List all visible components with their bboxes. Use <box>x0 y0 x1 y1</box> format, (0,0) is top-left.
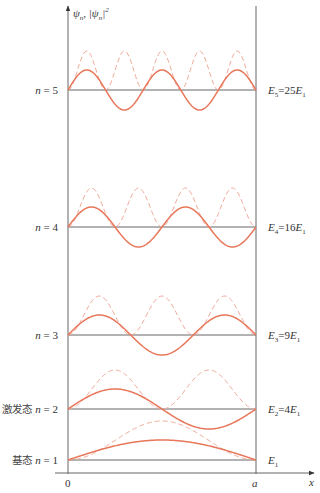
energy-label: E3=9E1 <box>267 329 301 344</box>
x-origin-label: 0 <box>65 477 71 489</box>
x-end-label: a <box>252 477 258 489</box>
energy-label: E1 <box>267 454 279 469</box>
level-label: n = 3 <box>35 329 58 341</box>
energy-levels: 基态 n = 1E1激发态 n = 2E2=4E1n = 3E3=9E1n = … <box>2 51 306 469</box>
y-axis-label: ψn, |ψn|2 <box>73 6 109 22</box>
level-n3: n = 3E3=9E1 <box>35 296 300 355</box>
level-n4: n = 4E4=16E1 <box>35 188 306 247</box>
energy-label: E4=16E1 <box>267 221 306 236</box>
infinite-square-well-diagram: ψn, |ψn|2 0 a x 基态 n = 1E1激发态 n = 2E2=4E… <box>0 0 320 493</box>
energy-label: E2=4E1 <box>267 403 301 418</box>
level-label: n = 4 <box>35 221 58 233</box>
energy-label: E5=25E1 <box>267 84 306 99</box>
level-n1: 基态 n = 1E1 <box>12 421 279 469</box>
level-label: 激发态 n = 2 <box>2 403 58 415</box>
level-n5: n = 5E5=25E1 <box>35 51 306 110</box>
x-axis-label: x <box>308 476 314 488</box>
level-label: 基态 n = 1 <box>12 454 58 466</box>
level-label: n = 5 <box>35 84 58 96</box>
wavefunction-curve <box>68 440 256 460</box>
probability-density-curve <box>68 370 256 409</box>
